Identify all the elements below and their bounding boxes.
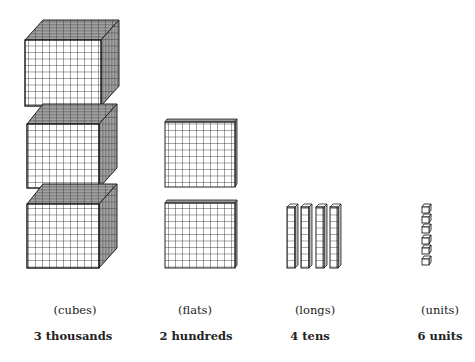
unit-block-1 <box>422 204 431 213</box>
unit-block-3 <box>422 224 431 233</box>
flat-block-2 <box>165 200 237 268</box>
unit-block-5 <box>422 245 431 254</box>
cubes-category-label: (cubes) <box>20 303 130 317</box>
cube-block-1 <box>25 20 119 106</box>
flat-block-1 <box>165 119 237 187</box>
cubes-count-label: 3 thousands <box>18 329 128 343</box>
unit-block-6 <box>422 256 431 265</box>
unit-blocks <box>422 204 431 265</box>
flats-category-label: (flats) <box>140 303 250 317</box>
long-block-3 <box>316 204 327 268</box>
long-blocks <box>287 204 341 268</box>
cube-block-3 <box>27 184 117 268</box>
longs-category-label: (longs) <box>260 303 370 317</box>
units-category-label: (units) <box>385 303 475 317</box>
cube-block-2 <box>27 104 117 188</box>
long-block-2 <box>301 204 312 268</box>
units-count-label: 6 units <box>385 329 475 343</box>
long-block-4 <box>330 204 341 268</box>
unit-block-2 <box>422 214 431 223</box>
base-ten-blocks-figure <box>0 0 475 300</box>
unit-block-4 <box>422 235 431 244</box>
long-block-1 <box>287 204 298 268</box>
longs-count-label: 4 tens <box>255 329 365 343</box>
flats-count-label: 2 hundreds <box>141 329 251 343</box>
